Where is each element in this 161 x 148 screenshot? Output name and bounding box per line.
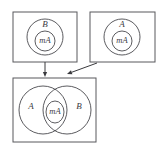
panel-top-right: A mA <box>90 12 155 62</box>
set-label-b: B <box>42 19 48 29</box>
panel-top-left: B mA <box>13 12 77 62</box>
set-label-a: A <box>118 19 125 29</box>
venn-label-ma: mA <box>49 106 61 116</box>
panel-bottom: A B mA <box>13 78 96 142</box>
arrow-down <box>43 62 47 77</box>
arrow-diagonal-head <box>67 70 72 74</box>
arrow-diagonal <box>67 63 97 74</box>
arrow-diagonal-line <box>72 63 97 72</box>
set-diagram: B mA A mA A B mA <box>0 0 161 148</box>
venn-label-a: A <box>27 101 34 111</box>
venn-label-b: B <box>76 101 82 111</box>
figure-container: B mA A mA A B mA <box>0 0 161 148</box>
arrow-down-head <box>43 72 47 77</box>
set-label-ma-2: mA <box>116 35 128 45</box>
set-label-ma: mA <box>39 35 51 45</box>
